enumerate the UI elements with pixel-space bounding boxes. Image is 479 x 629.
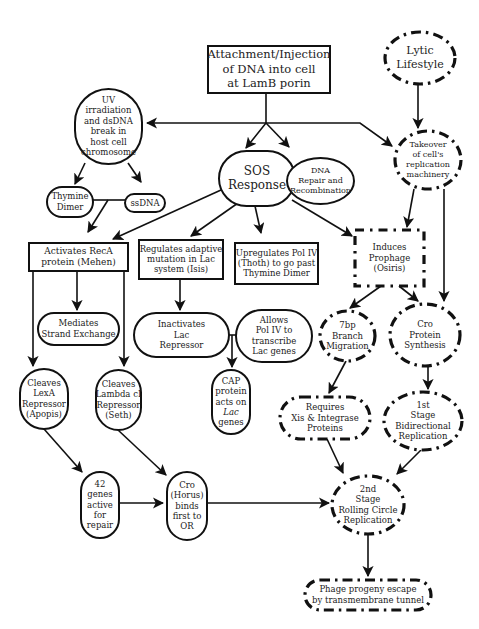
node-label-line: of DNA into cell	[223, 62, 316, 76]
edge-sos-to-regulates-adaptive	[191, 203, 238, 236]
node-label-line: machinery	[407, 170, 450, 179]
node-label-line: Thymine Dimer	[243, 268, 311, 278]
edge-cleaves-lambda-to-cro-horus	[118, 430, 166, 475]
node-label-line: Activates RecA	[43, 246, 113, 256]
node-label-line: Bidirectional	[395, 421, 451, 431]
node-label-line: Cleaves	[27, 378, 61, 388]
node-second-stage: 2ndStageRolling CircleReplication	[332, 476, 404, 534]
node-label-line: Cro	[417, 319, 433, 329]
node-label-line: Pol IV to	[256, 325, 293, 335]
node-label-line: at LamB porin	[227, 76, 311, 90]
node-regulates-adaptive: Regulates adaptivemutation in Lacsystem …	[139, 240, 223, 279]
node-label-line: system (Isis)	[154, 264, 208, 274]
node-label-line: and dsDNA	[84, 116, 134, 126]
node-label-line: genes	[87, 489, 112, 499]
node-label-line: Branch	[332, 331, 364, 341]
node-label-line: Thymine	[51, 191, 88, 201]
node-label-line: SOS	[244, 164, 270, 178]
node-cleaves-lambda: CleavesLambda cIRepressor(Seth)	[96, 370, 142, 430]
lambda-phage-flowchart: Attachment/Injectionof DNA into cellat L…	[0, 0, 479, 629]
node-inactivates-lac: InactivatesLacRepressor	[134, 313, 229, 357]
node-label-line: Lambda cI	[96, 389, 142, 399]
node-label-line: host cell	[90, 137, 127, 147]
node-activates-reca: Activates RecAprotein (Mehen)	[29, 243, 128, 271]
node-label-line: Attachment/Injection	[206, 47, 331, 61]
node-label-line: Regulates adaptive	[140, 244, 223, 254]
node-sos: SOSResponse	[219, 151, 295, 206]
edge-induces-prophage-to-branch	[350, 286, 381, 308]
node-label-line: (Osiris)	[374, 263, 406, 273]
node-label-line: Repressor	[22, 399, 67, 409]
edge-sos-to-upregulates-pol	[255, 206, 261, 233]
edge-attachment-to-sos	[246, 93, 266, 148]
node-label-line: Repressor	[97, 400, 142, 410]
node-label-line: of cell's	[413, 150, 444, 159]
node-label-line: Requires	[306, 402, 345, 412]
node-label-line: Allows	[259, 315, 288, 325]
node-label-line: Takeover	[410, 140, 447, 149]
node-label-line: Response	[228, 178, 286, 192]
node-label-line: 1st	[416, 400, 430, 410]
node-label-line: Repair and	[298, 176, 343, 185]
node-label-line: break in	[91, 126, 127, 136]
node-lytic: LyticLifestyle	[385, 32, 455, 84]
node-label-line: irradiation	[86, 105, 132, 115]
edge-uv-to-ssdna	[128, 163, 141, 182]
node-label-line: Proteins	[307, 423, 343, 433]
node-label-line: Lac	[222, 407, 239, 417]
node-label-line: Repressor	[160, 340, 205, 350]
node-allows-pol: AllowsPol IV totranscribeLac genes	[236, 310, 312, 362]
node-label-line: protein (Mehen)	[41, 257, 115, 267]
node-label-line: (Seth)	[105, 410, 131, 420]
edge-requires-xis-to-second-stage	[327, 439, 343, 473]
node-label-line: Mediates	[59, 318, 99, 328]
node-label-line: Strand Exchange	[41, 329, 115, 339]
node-label-line: acts on	[216, 397, 247, 407]
node-label-line: Cro	[179, 480, 195, 490]
nodes-layer: Attachment/Injectionof DNA into cellat L…	[20, 32, 462, 610]
node-label-line: active	[87, 500, 113, 510]
node-ssdna: ssDNA	[125, 194, 165, 212]
node-label-line: replication	[406, 160, 450, 169]
node-cap: CAPproteinacts onLacgenes	[212, 370, 250, 434]
node-label-line: (Thoth) to go past	[238, 258, 316, 268]
node-label-line: Lac genes	[252, 346, 296, 356]
node-label-line: (Horus)	[170, 490, 203, 500]
node-attachment: Attachment/Injectionof DNA into cellat L…	[206, 46, 331, 93]
node-label-line: protein	[215, 386, 247, 396]
edge-induces-prophage-to-cro-synthesis	[399, 286, 418, 301]
node-label-line: genes	[218, 417, 243, 427]
edge-uv-to-thymine	[75, 163, 85, 184]
node-label-line: Stage	[411, 410, 436, 420]
node-dna-repair: DNARepair andRecombination	[287, 158, 354, 204]
node-cro-horus: Cro(Horus)bindsfirst toOR	[167, 472, 207, 540]
node-label-line: Replication	[399, 431, 448, 441]
node-upregulates-pol: Upregulates Pol IV(Thoth) to go pastThym…	[235, 243, 318, 284]
node-label-line: Phage progeny escape	[319, 584, 416, 594]
node-genes-42: 42genesactiveforrepair	[81, 472, 119, 538]
node-cro-synthesis: CroProteinSynthesis	[390, 304, 460, 366]
node-label-line: Replication	[344, 515, 393, 525]
node-label-line: by transmembrane tunnel	[312, 595, 424, 605]
node-phage-escape: Phage progeny escapeby transmembrane tun…	[305, 580, 431, 610]
node-cleaves-lexa: CleavesLexARepressor(Apopis)	[20, 369, 68, 429]
node-label-line: Rolling Circle	[338, 505, 397, 515]
node-thymine: ThymineDimer	[47, 187, 93, 217]
node-label-line: Inactivates	[158, 319, 205, 329]
node-label-line: Lifestyle	[396, 58, 444, 71]
node-first-stage: 1stStageBidirectionalReplication	[384, 392, 462, 450]
node-label-line: transcribe	[252, 336, 296, 346]
node-label-line: 7bp	[339, 320, 356, 330]
node-label-line: ssDNA	[130, 198, 160, 208]
node-label-line: DNA	[311, 166, 330, 175]
node-mediates: MediatesStrand Exchange	[38, 313, 119, 345]
edge-branch-to-requires-xis	[329, 361, 346, 393]
node-label-line: mutation in Lac	[147, 254, 215, 264]
node-label-line: UV	[102, 95, 116, 105]
node-label-line: Recombination	[290, 186, 351, 195]
node-label-line: Xis & Integrase	[291, 413, 358, 423]
node-label-line: for	[94, 510, 107, 520]
node-label-line: Cleaves	[102, 379, 136, 389]
node-label-line: CAP	[222, 376, 241, 386]
node-label-line: Upregulates Pol IV	[236, 248, 318, 258]
